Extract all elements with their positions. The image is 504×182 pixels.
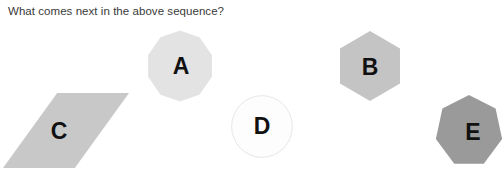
parallelogram-shape [3, 93, 129, 168]
decagon-icon [147, 31, 213, 101]
heptagon-icon [435, 95, 503, 167]
parallelogram-icon [3, 93, 129, 168]
circle-shape [232, 96, 293, 158]
answer-option-a[interactable]: A [147, 31, 213, 101]
answer-option-d[interactable]: D [231, 95, 293, 158]
question-stem: What comes next in the above sequence? [8, 4, 224, 18]
decagon-shape [149, 31, 212, 101]
answer-option-e[interactable]: E [435, 95, 503, 167]
hexagon-icon [340, 31, 400, 101]
answer-option-b[interactable]: B [340, 31, 400, 101]
heptagon-shape [436, 95, 502, 164]
answer-option-c[interactable]: C [3, 93, 129, 168]
circle-icon [231, 95, 293, 158]
hexagon-shape [340, 31, 400, 101]
